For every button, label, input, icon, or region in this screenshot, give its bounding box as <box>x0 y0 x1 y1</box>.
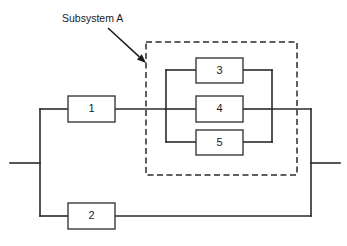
block-2[interactable]: 2 <box>68 203 115 229</box>
diagram-canvas: 12345 Subsystem A <box>0 0 347 246</box>
block-2-label: 2 <box>88 209 94 221</box>
block-4-label: 4 <box>216 102 222 114</box>
block-3-label: 3 <box>216 64 222 76</box>
subsystem-a-label: Subsystem A <box>62 12 123 24</box>
block-5[interactable]: 5 <box>196 130 243 155</box>
wire-layer <box>10 70 340 216</box>
callout-arrow-shaft <box>108 28 139 57</box>
block-5-label: 5 <box>216 136 222 148</box>
reliability-block-diagram: 12345 Subsystem A <box>0 0 347 246</box>
block-4[interactable]: 4 <box>196 96 243 122</box>
subsystem-callout-arrow <box>108 28 146 63</box>
block-1-label: 1 <box>88 102 94 114</box>
block-layer: 12345 <box>68 58 243 229</box>
block-3[interactable]: 3 <box>196 58 243 83</box>
block-1[interactable]: 1 <box>68 96 115 122</box>
